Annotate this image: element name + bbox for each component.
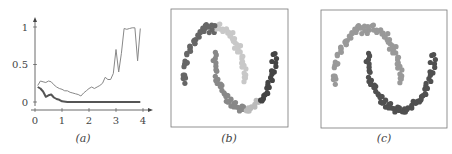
series-lines (38, 28, 141, 102)
scatter-point (425, 86, 430, 91)
scatter-point (333, 82, 338, 87)
scatter-point (432, 65, 437, 70)
scatter-point (388, 101, 393, 106)
panel-b-scatter: (b) (171, 9, 288, 145)
scatter-point (335, 53, 340, 58)
scatter-point (211, 58, 216, 63)
y-ticks: 00.51 (12, 22, 37, 108)
scatter-point (428, 70, 433, 75)
scatter-point (273, 64, 278, 69)
scatter-point (191, 39, 196, 44)
scatter-point (404, 107, 409, 112)
scatter-point (397, 71, 402, 76)
x-tick-label: 0 (32, 115, 38, 126)
scatter-point (214, 69, 219, 74)
y-tick-label: 0.5 (12, 59, 28, 70)
plot-frame-c (321, 10, 447, 128)
scatter-point (274, 56, 279, 61)
scatter-point (364, 59, 369, 64)
scatter-points-b (181, 21, 280, 113)
caption-a: (a) (75, 132, 90, 145)
scatter-points-c (331, 22, 438, 114)
scatter-point (368, 70, 373, 75)
scatter-point (272, 51, 277, 56)
x-tick-label: 4 (140, 115, 146, 126)
scatter-point (270, 69, 275, 74)
plot-frame-b (171, 9, 288, 127)
series-line-1 (38, 87, 141, 102)
scatter-point (270, 78, 275, 83)
y-tick-label: 1 (22, 22, 28, 33)
x-ticks: 01234 (32, 108, 146, 126)
x-tick-label: 1 (59, 115, 65, 126)
x-tick-label: 2 (86, 115, 92, 126)
figure: 01234 00.51 (a) (b) (c) (0, 0, 452, 154)
scatter-point (331, 77, 336, 82)
scatter-point (265, 90, 270, 95)
scatter-point (181, 76, 186, 81)
scatter-point (181, 64, 186, 69)
scatter-point (433, 57, 438, 62)
x-axis-arrow-icon (148, 108, 153, 112)
scatter-point (428, 60, 433, 65)
scatter-point (431, 52, 436, 57)
panel-c-scatter: (c) (321, 10, 447, 145)
scatter-point (383, 98, 388, 103)
scatter-point (269, 59, 274, 64)
y-axis-arrow-icon (33, 17, 37, 22)
scatter-point (184, 52, 189, 57)
x-tick-label: 3 (113, 115, 119, 126)
scatter-point (207, 30, 212, 35)
y-tick-label: 0 (22, 97, 28, 108)
scatter-point (342, 40, 347, 45)
scatter-point (267, 85, 272, 90)
scatter-point (242, 70, 247, 75)
caption-c: (c) (377, 132, 392, 145)
scatter-point (424, 81, 429, 86)
scatter-point (370, 23, 375, 28)
scatter-point (359, 31, 364, 36)
scatter-point (332, 65, 337, 70)
panel-a-line-chart: 01234 00.51 (a) (12, 17, 153, 145)
caption-b: (b) (221, 132, 237, 145)
scatter-point (335, 61, 340, 66)
scatter-point (185, 60, 190, 65)
scatter-point (428, 79, 433, 84)
scatter-point (182, 81, 187, 86)
scatter-point (233, 100, 238, 105)
scatter-point (423, 91, 428, 96)
series-line-0 (38, 28, 141, 96)
